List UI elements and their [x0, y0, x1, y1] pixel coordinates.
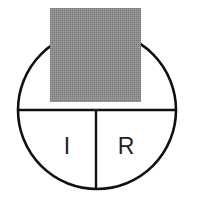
label-R: R: [118, 133, 135, 159]
figure-canvas: I R: [0, 0, 198, 208]
figure-root: I R: [0, 0, 198, 208]
gray-square-overlay: [50, 8, 141, 102]
label-I: I: [64, 133, 70, 159]
